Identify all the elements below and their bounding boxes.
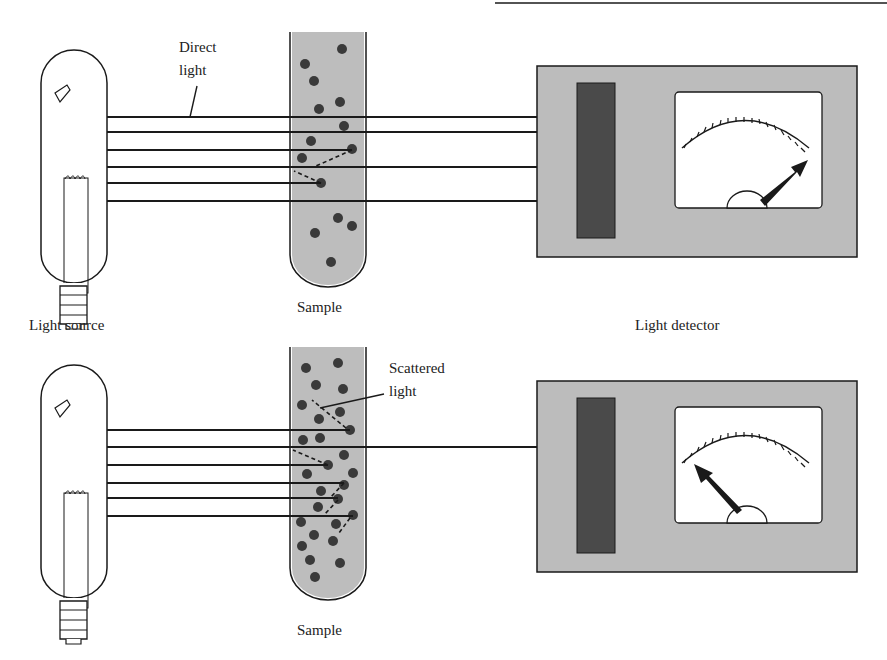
direct-light-label-2: light <box>179 62 207 78</box>
panel-scattered-light: Scattered light <box>41 347 857 644</box>
sample-label: Sample <box>297 299 342 315</box>
meter-gauge <box>675 407 822 523</box>
light-detector <box>537 381 857 572</box>
light-detector-label: Light detector <box>635 317 720 333</box>
light-scattering-diagram: Direct light <box>0 0 887 660</box>
scattered-light-label-2: light <box>389 383 417 399</box>
sample-tube <box>290 347 366 600</box>
sample-tube <box>290 32 366 287</box>
light-source-label: Light source <box>29 317 105 333</box>
scattered-light-label-1: Scattered <box>389 360 445 376</box>
meter-gauge <box>675 92 822 208</box>
panel-direct-light: Direct light <box>29 32 857 333</box>
direct-light-label-1: Direct <box>179 39 217 55</box>
light-detector <box>537 66 857 257</box>
sample-label: Sample <box>297 622 342 638</box>
detector-strip <box>577 398 615 553</box>
detector-strip <box>577 83 615 238</box>
callout-line <box>190 86 197 117</box>
light-bulb-icon <box>41 50 107 329</box>
light-bulb-icon <box>41 365 107 644</box>
